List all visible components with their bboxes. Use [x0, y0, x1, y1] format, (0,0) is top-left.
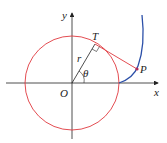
point-p-label: P [139, 63, 147, 75]
x-axis-label: x [153, 86, 159, 98]
radius-label: r [77, 52, 82, 64]
tangent-point-label: T [92, 30, 99, 42]
involute-diagram: y x O T P r θ [0, 0, 167, 143]
angle-label: θ [83, 67, 89, 79]
origin-label: O [60, 87, 68, 99]
y-axis-label: y [61, 9, 67, 21]
point-p-dot [135, 67, 138, 70]
